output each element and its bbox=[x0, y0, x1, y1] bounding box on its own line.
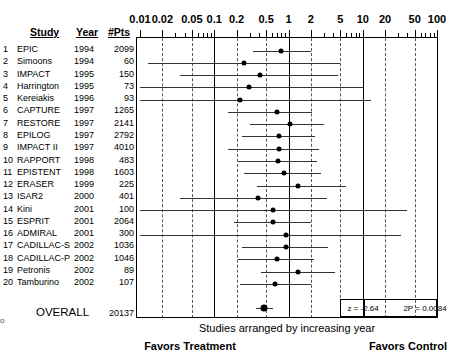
x-axis-minor-tick bbox=[351, 33, 352, 37]
x-axis-minor-tick bbox=[324, 33, 325, 37]
caption-main: Studies arranged by increasing year bbox=[199, 322, 375, 334]
x-axis-tick-label: 10 bbox=[357, 13, 369, 25]
plot-frame bbox=[136, 37, 438, 318]
study-point-estimate bbox=[283, 232, 288, 237]
x-axis-minor-tick bbox=[281, 33, 282, 37]
x-axis-tick bbox=[415, 30, 416, 37]
x-axis-tick bbox=[385, 30, 386, 37]
study-point-estimate bbox=[256, 195, 261, 200]
x-axis-minor-tick bbox=[211, 33, 212, 37]
x-axis-minor-tick bbox=[430, 33, 431, 37]
x-axis-tick bbox=[311, 30, 312, 37]
study-point-estimate bbox=[257, 73, 262, 78]
x-axis-tick bbox=[237, 30, 238, 37]
x-axis-tick bbox=[363, 30, 364, 37]
study-ci bbox=[228, 149, 319, 150]
x-axis-minor-tick bbox=[259, 33, 260, 37]
edge-artifact: o bbox=[0, 316, 4, 325]
x-axis-minor-tick bbox=[407, 33, 408, 37]
x-axis-tick-label: 2 bbox=[308, 13, 314, 25]
study-point-estimate bbox=[275, 159, 280, 164]
x-axis-tick-label: 0.2 bbox=[229, 13, 244, 25]
study-point-estimate bbox=[296, 183, 301, 188]
x-axis-minor-tick bbox=[285, 33, 286, 37]
study-point-estimate bbox=[276, 146, 281, 151]
study-point-estimate bbox=[274, 257, 279, 262]
x-axis-minor-tick bbox=[250, 33, 251, 37]
x-axis-minor-tick bbox=[425, 33, 426, 37]
study-point-estimate bbox=[246, 85, 251, 90]
study-point-estimate bbox=[274, 109, 279, 114]
study-point-estimate bbox=[296, 269, 301, 274]
x-axis-minor-tick bbox=[346, 33, 347, 37]
x-axis-minor-tick bbox=[359, 33, 360, 37]
study-ci bbox=[140, 100, 371, 101]
study-point-estimate bbox=[284, 244, 289, 249]
statistics-box: z = -2.64 2P = 0.0084 bbox=[340, 299, 437, 317]
study-ci bbox=[228, 112, 312, 113]
x-axis-tick-label: 5 bbox=[337, 13, 343, 25]
x-axis-tick-label: 0.01 bbox=[129, 13, 150, 25]
x-axis-tick bbox=[266, 30, 267, 37]
x-axis-tick-label: 50 bbox=[409, 13, 421, 25]
x-axis-minor-tick bbox=[198, 33, 199, 37]
x-axis-tick-label: 0.5 bbox=[258, 13, 273, 25]
study-point-estimate bbox=[277, 134, 282, 139]
x-axis-tick bbox=[289, 30, 290, 37]
x-axis-minor-tick bbox=[434, 33, 435, 37]
study-ci bbox=[180, 198, 327, 199]
x-axis-minor-tick bbox=[333, 33, 334, 37]
x-axis-minor-tick bbox=[277, 33, 278, 37]
study-ci bbox=[140, 235, 401, 236]
study-point-estimate bbox=[288, 122, 293, 127]
study-point-estimate bbox=[241, 60, 246, 65]
x-axis-tick bbox=[437, 30, 438, 37]
x-axis-minor-tick bbox=[356, 33, 357, 37]
x-axis-minor-tick bbox=[272, 33, 273, 37]
study-ci bbox=[257, 186, 346, 187]
x-axis-minor-tick bbox=[175, 33, 176, 37]
x-axis-tick-label: 0.02 bbox=[152, 13, 173, 25]
x-axis-tick-label: 20 bbox=[379, 13, 391, 25]
stat-p: 2P = 0.0084 bbox=[403, 304, 446, 313]
caption-favors-control: Favors Control bbox=[369, 340, 447, 352]
study-point-estimate bbox=[273, 281, 278, 286]
study-point-estimate bbox=[237, 97, 242, 102]
x-axis-tick-label: 0.05 bbox=[181, 13, 202, 25]
plot-area: 0.010.020.050.10.20.5125102050100 z = -2… bbox=[0, 0, 475, 355]
x-axis-tick-label: 1 bbox=[285, 13, 291, 25]
x-axis-tick bbox=[140, 30, 141, 37]
forest-plot-figure: Study Year #Pts 1EPIC199420992Simoons199… bbox=[0, 0, 475, 355]
x-axis-tick bbox=[214, 30, 215, 37]
x-axis-tick bbox=[340, 30, 341, 37]
caption-favors-treatment: Favors Treatment bbox=[144, 340, 236, 352]
x-axis-tick bbox=[162, 30, 163, 37]
x-axis-tick bbox=[192, 30, 193, 37]
x-axis-minor-tick bbox=[185, 33, 186, 37]
study-point-estimate bbox=[270, 220, 275, 225]
overall-point-estimate bbox=[261, 305, 268, 312]
study-point-estimate bbox=[281, 171, 286, 176]
study-point-estimate bbox=[279, 48, 284, 53]
x-axis-minor-tick bbox=[203, 33, 204, 37]
x-axis-minor-tick bbox=[207, 33, 208, 37]
study-point-estimate bbox=[271, 208, 276, 213]
x-axis-tick-label: 0.1 bbox=[207, 13, 222, 25]
x-axis-minor-tick bbox=[398, 33, 399, 37]
study-ci bbox=[140, 87, 363, 88]
x-axis-minor-tick bbox=[421, 33, 422, 37]
x-axis-tick-label: 100 bbox=[428, 13, 446, 25]
